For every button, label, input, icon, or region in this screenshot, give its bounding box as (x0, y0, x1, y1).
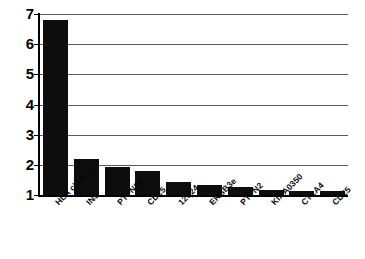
x-axis-label-slot: 12q24 (163, 196, 193, 256)
x-axis-label-slot: PTPN22 (102, 196, 132, 256)
x-axis-category-labels: HLA class IIINSPTPN22CD2512q24ERBB3ePTPN… (40, 196, 348, 259)
y-axis-tick-label: 1 (8, 187, 34, 202)
y-axis-tick-labels: 1234567 (0, 0, 34, 259)
x-axis-label-slot: CD25 (132, 196, 162, 256)
y-axis-tick-label: 7 (8, 6, 34, 21)
gridline (40, 105, 348, 106)
y-axis-tick-label: 3 (8, 127, 34, 142)
y-axis-tick-label: 5 (8, 66, 34, 81)
x-axis-label-slot: ERBB3e (194, 196, 224, 256)
y-axis-tick-label: 2 (8, 157, 34, 172)
gridline (40, 14, 348, 15)
y-axis-tick-label: 6 (8, 36, 34, 51)
x-axis-label-slot: PTPN2 (225, 196, 255, 256)
x-axis-label-slot: INS (71, 196, 101, 256)
x-axis-label-slot: HLA class II (40, 196, 70, 256)
x-axis-label-slot: CTLA4 (286, 196, 316, 256)
gridline (40, 74, 348, 75)
x-axis-label-slot: CD25 (317, 196, 347, 256)
bar (43, 20, 68, 195)
gridline (40, 135, 348, 136)
bar-chart: 1234567 HLA class IIINSPTPN22CD2512q24ER… (0, 0, 365, 259)
y-axis-tick-label: 4 (8, 97, 34, 112)
gridline (40, 44, 348, 45)
x-axis-label-slot: KIAA0350 (256, 196, 286, 256)
